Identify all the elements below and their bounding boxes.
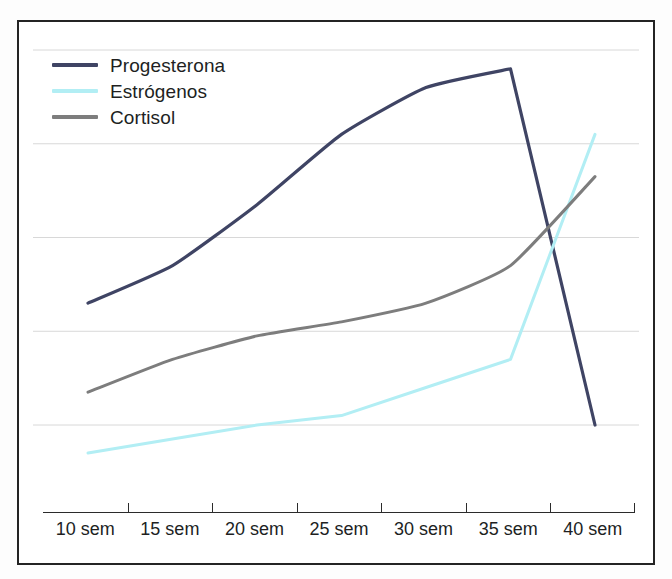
- chart-legend: Progesterona Estrógenos Cortisol: [52, 52, 352, 130]
- x-axis-tick-label: 20 sem: [212, 512, 297, 546]
- x-axis-label-text: 20 sem: [225, 519, 284, 540]
- x-axis-label-text: 35 sem: [479, 519, 538, 540]
- x-axis-tick: [550, 503, 551, 512]
- legend-label-cortisol: Cortisol: [110, 108, 175, 127]
- x-axis-tick: [381, 503, 382, 512]
- x-axis-tick-end: [634, 503, 635, 512]
- x-axis-tick-label: 30 sem: [381, 512, 466, 546]
- x-axis-tick: [466, 503, 467, 512]
- x-axis-tick: [297, 503, 298, 512]
- x-axis-tick-label: 35 sem: [466, 512, 551, 546]
- series-line-estrgenos: [88, 134, 595, 453]
- x-axis: 10 sem15 sem20 sem25 sem30 sem35 sem40 s…: [43, 512, 635, 546]
- legend-label-estrogenos: Estrógenos: [110, 82, 207, 101]
- x-axis-label-text: 15 sem: [140, 519, 199, 540]
- x-axis-tick-label: 10 sem: [43, 512, 128, 546]
- legend-label-progesterona: Progesterona: [110, 56, 225, 75]
- legend-item-cortisol[interactable]: Cortisol: [52, 104, 352, 130]
- chart-figure: Progesterona Estrógenos Cortisol 10 sem1…: [0, 0, 672, 579]
- x-axis-tick-label: 25 sem: [297, 512, 382, 546]
- legend-swatch-estrogenos: [52, 89, 98, 93]
- legend-swatch-progesterona: [52, 63, 98, 67]
- x-axis-label-text: 40 sem: [563, 519, 622, 540]
- legend-swatch-cortisol: [52, 115, 98, 119]
- series-line-cortisol: [88, 177, 595, 393]
- legend-item-progesterona[interactable]: Progesterona: [52, 52, 352, 78]
- x-axis-tick: [128, 503, 129, 512]
- x-axis-labels: 10 sem15 sem20 sem25 sem30 sem35 sem40 s…: [43, 512, 635, 546]
- x-axis-tick-label: 15 sem: [128, 512, 213, 546]
- x-axis-tick-label: 40 sem: [550, 512, 635, 546]
- x-axis-label-text: 25 sem: [310, 519, 369, 540]
- legend-item-estrogenos[interactable]: Estrógenos: [52, 78, 352, 104]
- x-axis-tick: [212, 503, 213, 512]
- x-axis-label-text: 10 sem: [56, 519, 115, 540]
- x-axis-label-text: 30 sem: [394, 519, 453, 540]
